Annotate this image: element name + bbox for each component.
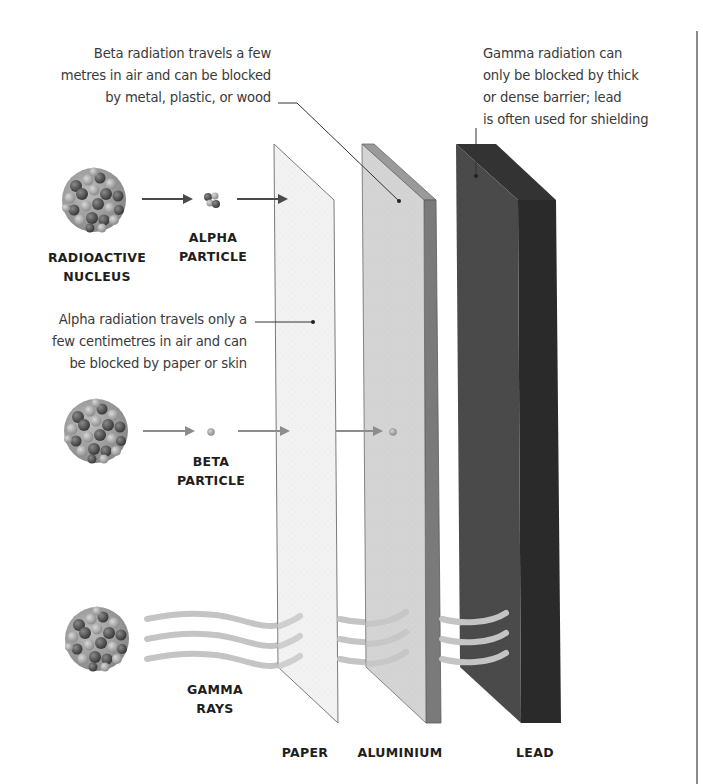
alpha-path [142, 193, 286, 209]
alpha-particle-icon [204, 193, 220, 209]
lead-label: LEAD [505, 743, 565, 762]
beta-particle-icon [208, 429, 215, 436]
gamma-waves-incoming [147, 614, 298, 666]
nucleus-icon-beta [64, 399, 128, 464]
beta-particle-icon [390, 429, 397, 436]
beta-path [143, 429, 397, 436]
paper-barrier [274, 144, 338, 723]
lead-barrier [456, 144, 561, 723]
alpha-annotation: Alpha radiation travels only a few centi… [52, 309, 247, 375]
aluminium-label: ALUMINIUM [350, 743, 450, 762]
nucleus-label: RADIOACTIVE NUCLEUS [38, 248, 156, 286]
nucleus-icon-alpha [62, 168, 126, 233]
paper-label: PAPER [270, 743, 340, 762]
gamma-rays-label: GAMMA RAYS [170, 680, 260, 718]
alpha-particle-label: ALPHA PARTICLE [168, 228, 258, 266]
beta-annotation: Beta radiation travels a few metres in a… [61, 43, 271, 109]
beta-particle-label: BETA PARTICLE [166, 452, 256, 490]
divider-line [696, 31, 698, 784]
nucleus-icon-gamma [65, 607, 129, 672]
gamma-annotation: Gamma radiation can only be blocked by t… [483, 43, 648, 131]
